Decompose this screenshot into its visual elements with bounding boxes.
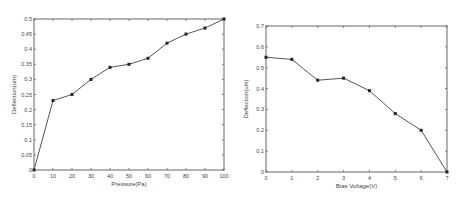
y-tick-label: 0.1 xyxy=(256,148,264,154)
y-tick-label: 0.5 xyxy=(256,65,264,71)
y-tick-label: 0.7 xyxy=(256,23,264,29)
y-tick-label: 0 xyxy=(261,169,264,175)
data-point-marker xyxy=(316,79,319,82)
x-tick-label: 0 xyxy=(264,175,267,181)
x-tick-label: 4 xyxy=(368,175,371,181)
data-point-marker xyxy=(368,89,371,92)
y-tick-label: 0.2 xyxy=(256,127,264,133)
plot-area-frame xyxy=(266,26,447,172)
x-tick-label: 2 xyxy=(316,175,319,181)
data-point-marker xyxy=(265,56,268,59)
y-axis-label: Deflection(um) xyxy=(243,79,249,118)
x-tick-label: 6 xyxy=(420,175,423,181)
y-tick-label: 0.4 xyxy=(256,86,264,92)
data-point-marker xyxy=(342,77,345,80)
x-tick-label: 7 xyxy=(445,175,448,181)
voltage-deflection-chart: 0123456700.10.20.30.40.50.60.7Bias Volta… xyxy=(0,0,462,199)
x-tick-label: 3 xyxy=(342,175,345,181)
y-tick-label: 0.6 xyxy=(256,44,264,50)
x-tick-label: 5 xyxy=(394,175,397,181)
y-tick-label: 0.3 xyxy=(256,106,264,112)
data-point-marker xyxy=(394,112,397,115)
x-tick-label: 1 xyxy=(290,175,293,181)
data-point-marker xyxy=(420,129,423,132)
data-point-marker xyxy=(446,171,449,174)
data-point-marker xyxy=(290,58,293,61)
x-axis-label: Bias Voltage(V) xyxy=(336,183,377,189)
data-line xyxy=(266,57,447,172)
